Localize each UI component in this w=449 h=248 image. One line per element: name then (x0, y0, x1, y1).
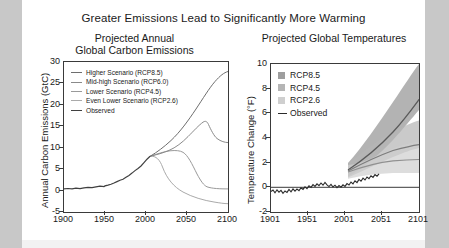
panel-temperature: Projected Global Temperatures Temperatur… (238, 32, 425, 232)
temperature-xtick-1951: 1951 (297, 214, 317, 224)
legend-label-rcp85: Higher Scenario (RCP8.5) (86, 68, 163, 77)
temperature-ytick-10: 10 (257, 58, 267, 68)
series-line-temp-observed (271, 174, 379, 194)
legend-label-temp-observed: Observed (290, 107, 327, 120)
emissions-title-line-1: Projected Annual (42, 32, 227, 44)
legend-item-temp-rcp85: RCP8.5 (278, 69, 327, 82)
legend-item-temp-rcp45: RCP4.5 (278, 82, 327, 95)
legend-line-icon-temp-observed (278, 113, 287, 114)
series-line-rcp45 (150, 151, 228, 189)
legend-line-icon-rcp85 (71, 72, 82, 73)
emissions-xtick-2000: 2000 (135, 214, 155, 224)
emissions-title-line-2: Global Carbon Emissions (42, 44, 227, 56)
emissions-x-tick-labels: 1900 1950 2000 2050 2100 (30, 214, 235, 226)
legend-swatch-icon-rcp45 (278, 84, 285, 91)
legend-swatch-icon-rcp26 (278, 97, 285, 104)
temperature-xtick-1901: 1901 (260, 214, 280, 224)
legend-label-temp-rcp45: RCP4.5 (290, 82, 320, 95)
legend-item-temp-observed: Observed (278, 107, 327, 120)
series-line-observed (64, 156, 150, 189)
emissions-xtick-1950: 1950 (94, 214, 114, 224)
figure-title: Greater Emissions Lead to Significantly … (22, 12, 425, 24)
panel-emissions: Projected Annual Global Carbon Emissions… (30, 32, 235, 232)
legend-line-icon-rcp60 (71, 82, 82, 83)
emissions-chart-title: Projected Annual Global Carbon Emissions (42, 32, 227, 56)
legend-line-icon-observed (71, 110, 82, 111)
legend-item-rcp85: Higher Scenario (RCP8.5) (71, 68, 178, 77)
legend-line-icon-rcp45 (71, 91, 82, 92)
legend-label-rcp45: Lower Scenario (RCP4.5) (86, 87, 161, 96)
temperature-xtick-2101: 2101 (408, 214, 428, 224)
legend-item-observed: Observed (71, 106, 178, 115)
series-line-rcp60 (150, 121, 228, 156)
series-line-rcp26 (150, 156, 228, 203)
legend-line-icon-rcp26 (71, 100, 82, 101)
emissions-y-tick-labels: 30 25 20 15 10 5 0 -5 (40, 61, 60, 211)
legend-label-temp-rcp26: RCP2.6 (290, 94, 320, 107)
legend-item-rcp60: Mid-high Scenario (RCP6.0) (71, 77, 178, 86)
figure-sheet: Greater Emissions Lead to Significantly … (22, 0, 425, 240)
legend-swatch-icon-rcp85 (278, 72, 285, 79)
emissions-xtick-2050: 2050 (176, 214, 196, 224)
emissions-xtick-1900: 1900 (53, 214, 73, 224)
legend-label-rcp26: Even Lower Scenario (RCP2.6) (86, 96, 178, 105)
legend-label-rcp60: Mid-high Scenario (RCP6.0) (86, 77, 168, 86)
emissions-legend: Higher Scenario (RCP8.5) Mid-high Scenar… (71, 68, 178, 115)
emissions-xtick-2100: 2100 (217, 214, 237, 224)
temperature-xtick-2001: 2001 (334, 214, 354, 224)
temperature-y-tick-labels: 10 8 6 4 2 0 -2 (247, 63, 267, 211)
sheet-bottom-strip (22, 240, 425, 248)
legend-item-rcp26: Even Lower Scenario (RCP2.6) (71, 96, 178, 105)
legend-item-temp-rcp26: RCP2.6 (278, 94, 327, 107)
legend-label-observed: Observed (86, 106, 115, 115)
legend-label-temp-rcp85: RCP8.5 (290, 69, 320, 82)
legend-item-rcp45: Lower Scenario (RCP4.5) (71, 87, 178, 96)
temperature-legend: RCP8.5 RCP4.5 RCP2.6 Observed (278, 69, 327, 119)
temperature-x-tick-labels: 1901 1951 2001 2051 2101 (238, 214, 425, 226)
emissions-ytick-30: 30 (50, 56, 60, 66)
temperature-chart-title: Projected Global Temperatures (244, 32, 424, 44)
temperature-xtick-2051: 2051 (371, 214, 391, 224)
